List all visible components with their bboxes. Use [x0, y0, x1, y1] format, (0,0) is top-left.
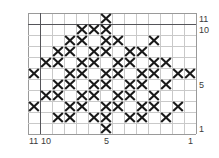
- axis-tick-label-right: 5: [199, 80, 204, 90]
- chart-cell-marked[interactable]: [52, 79, 64, 90]
- axis-tick-label-bottom: 10: [41, 136, 51, 146]
- cross-icon: [88, 112, 100, 123]
- chart-cell-marked[interactable]: [88, 57, 100, 68]
- cross-icon: [112, 68, 124, 79]
- chart-cell-marked[interactable]: [100, 123, 112, 134]
- chart-cell-marked[interactable]: [64, 101, 76, 112]
- cross-icon: [136, 101, 148, 112]
- chart-cell-marked[interactable]: [112, 35, 124, 46]
- chart-cell-marked[interactable]: [76, 68, 88, 79]
- chart-cell-marked[interactable]: [64, 79, 76, 90]
- chart-cell-marked[interactable]: [64, 35, 76, 46]
- cross-icon: [148, 68, 160, 79]
- chart-cell-marked[interactable]: [40, 57, 52, 68]
- chart-cell-marked[interactable]: [124, 79, 136, 90]
- chart-cell-marked[interactable]: [52, 57, 64, 68]
- chart-cell-marked[interactable]: [148, 35, 160, 46]
- chart-cell-marked[interactable]: [88, 112, 100, 123]
- chart-cell-marked[interactable]: [88, 79, 100, 90]
- cross-icon: [160, 79, 172, 90]
- chart-cell-marked[interactable]: [76, 90, 88, 101]
- chart-cell-marked[interactable]: [100, 13, 112, 24]
- chart-cell-marked[interactable]: [88, 46, 100, 57]
- cross-icon: [136, 112, 148, 123]
- chart-cell-marked[interactable]: [52, 112, 64, 123]
- cross-icon: [112, 101, 124, 112]
- chart-cell-marked[interactable]: [148, 68, 160, 79]
- cross-icon: [88, 24, 100, 35]
- chart-cell-marked[interactable]: [28, 68, 40, 79]
- cross-icon: [64, 46, 76, 57]
- chart-cell-marked[interactable]: [112, 101, 124, 112]
- cross-icon: [64, 68, 76, 79]
- chart-cell-marked[interactable]: [160, 112, 172, 123]
- repeat-marker-horizontal: [28, 24, 196, 25]
- cross-icon: [88, 79, 100, 90]
- cross-icon: [124, 57, 136, 68]
- chart-cell-marked[interactable]: [52, 46, 64, 57]
- chart-cell-marked[interactable]: [100, 24, 112, 35]
- chart-cell-marked[interactable]: [100, 112, 112, 123]
- cross-icon: [52, 90, 64, 101]
- chart-cell-marked[interactable]: [100, 79, 112, 90]
- chart-cell-marked[interactable]: [88, 24, 100, 35]
- cross-icon: [88, 57, 100, 68]
- chart-cell-marked[interactable]: [124, 112, 136, 123]
- cross-icon: [40, 90, 52, 101]
- chart-cell-marked[interactable]: [112, 68, 124, 79]
- chart-cell-marked[interactable]: [76, 35, 88, 46]
- chart-cell-marked[interactable]: [148, 90, 160, 101]
- cross-icon: [100, 13, 112, 24]
- chart-cell-marked[interactable]: [76, 57, 88, 68]
- chart-cell-marked[interactable]: [136, 46, 148, 57]
- chart-cell-marked[interactable]: [124, 90, 136, 101]
- cross-icon: [40, 57, 52, 68]
- stitch-chart-grid[interactable]: [28, 13, 196, 134]
- chart-cell-marked[interactable]: [160, 57, 172, 68]
- axis-tick-label-right: 10: [199, 25, 209, 35]
- cross-icon: [76, 68, 88, 79]
- chart-cell-marked[interactable]: [100, 101, 112, 112]
- chart-cell-marked[interactable]: [76, 101, 88, 112]
- cross-icon: [64, 101, 76, 112]
- chart-cell-marked[interactable]: [28, 101, 40, 112]
- cross-icon: [124, 90, 136, 101]
- chart-cell-marked[interactable]: [136, 112, 148, 123]
- chart-cell-marked[interactable]: [124, 46, 136, 57]
- chart-cell-marked[interactable]: [40, 90, 52, 101]
- axis-tick-label-bottom: 1: [188, 136, 193, 146]
- chart-cell-marked[interactable]: [64, 112, 76, 123]
- chart-cell-marked[interactable]: [160, 79, 172, 90]
- chart-cell-marked[interactable]: [88, 90, 100, 101]
- chart-cell-marked[interactable]: [136, 101, 148, 112]
- chart-cell-marked[interactable]: [76, 24, 88, 35]
- gridline-horizontal: [28, 134, 196, 135]
- chart-cell-marked[interactable]: [100, 35, 112, 46]
- chart-cell-marked[interactable]: [112, 90, 124, 101]
- chart-cell-marked[interactable]: [136, 79, 148, 90]
- chart-cell-marked[interactable]: [172, 101, 184, 112]
- chart-cell-marked[interactable]: [124, 57, 136, 68]
- cross-icon: [76, 57, 88, 68]
- chart-cell-marked[interactable]: [148, 57, 160, 68]
- cross-icon: [100, 123, 112, 134]
- chart-cell-marked[interactable]: [64, 46, 76, 57]
- chart-cell-marked[interactable]: [100, 46, 112, 57]
- cross-icon: [136, 46, 148, 57]
- chart-cell-marked[interactable]: [64, 68, 76, 79]
- cross-icon: [100, 35, 112, 46]
- chart-cell-marked[interactable]: [100, 68, 112, 79]
- chart-cell-marked[interactable]: [148, 101, 160, 112]
- cross-icon: [76, 90, 88, 101]
- chart-cell-marked[interactable]: [136, 68, 148, 79]
- cross-icon: [184, 68, 196, 79]
- chart-cell-marked[interactable]: [172, 68, 184, 79]
- cross-icon: [112, 90, 124, 101]
- cross-icon: [76, 35, 88, 46]
- chart-cell-marked[interactable]: [52, 90, 64, 101]
- chart-cell-marked[interactable]: [112, 57, 124, 68]
- chart-canvas: 111051 111051: [0, 0, 219, 158]
- cross-icon: [76, 24, 88, 35]
- cross-icon: [100, 68, 112, 79]
- chart-cell-marked[interactable]: [184, 68, 196, 79]
